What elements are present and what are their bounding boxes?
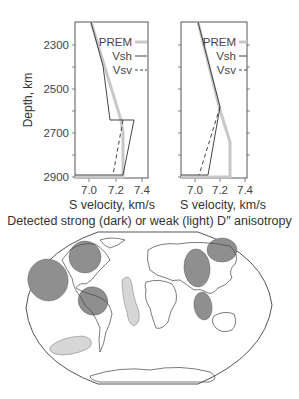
svg-text:Vsh: Vsh	[216, 50, 236, 62]
svg-text:PREM: PREM	[99, 36, 132, 48]
svg-text:Vsv: Vsv	[113, 64, 132, 76]
svg-text:2500: 2500	[43, 83, 69, 95]
x-axis-label-right: S velocity, km/s	[180, 198, 266, 212]
svg-text:2900: 2900	[43, 171, 69, 183]
velocity-profile-charts: Depth, km 2300 2500 2700 2900 PREM Vsh V…	[0, 0, 299, 230]
svg-text:7.4: 7.4	[237, 184, 254, 196]
svg-text:7.4: 7.4	[134, 184, 151, 196]
svg-text:7.2: 7.2	[108, 184, 124, 196]
svg-text:2700: 2700	[43, 127, 69, 139]
y-axis-label: Depth, km	[21, 73, 35, 128]
right-chart: PREM Vsh Vsv 7.0 7.2 7.4 S velocity, km/…	[178, 22, 266, 212]
map-title: Detected strong (dark) or weak (light) D…	[0, 214, 299, 228]
left-chart: Depth, km 2300 2500 2700 2900 PREM Vsh V…	[21, 22, 155, 212]
y-tick-labels: 2300 2500 2700 2900	[43, 39, 69, 183]
svg-text:7.0: 7.0	[187, 184, 203, 196]
svg-text:PREM: PREM	[203, 36, 236, 48]
x-axis-label-left: S velocity, km/s	[69, 198, 155, 212]
world-map	[0, 230, 299, 399]
svg-text:7.2: 7.2	[212, 184, 228, 196]
svg-text:2300: 2300	[43, 39, 69, 51]
svg-text:7.0: 7.0	[81, 184, 97, 196]
svg-text:Vsh: Vsh	[112, 50, 132, 62]
svg-text:Vsv: Vsv	[217, 64, 236, 76]
